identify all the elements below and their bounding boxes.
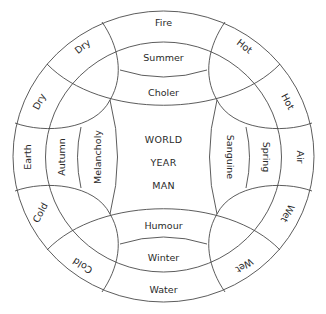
label-choler: Choler: [148, 87, 179, 98]
label-wet-right: Wet: [279, 203, 297, 225]
spring-sanguine-divider: [246, 127, 250, 188]
label-cold-bottom: Cold: [71, 256, 95, 277]
winter-left-arc: [102, 214, 118, 292]
summer-left-arc: [102, 22, 118, 100]
sanguine-inner-border: [210, 100, 218, 214]
label-earth: Earth: [22, 144, 33, 169]
label-cold-left: Cold: [30, 201, 50, 225]
winter-humour-divider: [120, 237, 207, 244]
cosmological-tetrad-diagram: Fire Summer Choler WORLD YEAR MAN Humour…: [0, 0, 326, 314]
label-humour: Humour: [144, 220, 182, 231]
label-fire: Fire: [155, 17, 172, 28]
melancholy-inner-border: [110, 100, 118, 214]
winter-right-arc: [209, 214, 225, 292]
label-melancholy: Melancholy: [92, 130, 103, 184]
choler-lower-arc: [47, 64, 280, 105]
label-dry-top: Dry: [72, 36, 92, 55]
label-spring: Spring: [261, 142, 272, 173]
label-autumn: Autumn: [56, 138, 67, 176]
summer-choler-divider: [120, 70, 207, 77]
center-year: YEAR: [149, 157, 176, 168]
label-hot-top: Hot: [235, 37, 255, 56]
label-hot-right: Hot: [279, 92, 297, 112]
label-dry-left: Dry: [30, 91, 48, 111]
label-water: Water: [149, 284, 177, 295]
autumn-lower-arc: [15, 185, 110, 214]
label-summer: Summer: [143, 52, 183, 63]
spring-lower-arc: [217, 185, 312, 214]
spring-upper-arc: [217, 100, 312, 129]
label-winter: Winter: [148, 252, 179, 263]
center-world: WORLD: [145, 134, 183, 145]
summer-right-arc: [209, 22, 225, 100]
label-sanguine: Sanguine: [225, 135, 236, 180]
labels: Fire Summer Choler WORLD YEAR MAN Humour…: [22, 17, 306, 295]
autumn-upper-arc: [15, 100, 110, 129]
label-wet-bottom: Wet: [234, 256, 256, 275]
label-air: Air: [295, 150, 306, 163]
center-man: MAN: [152, 180, 175, 191]
autumn-melancholy-divider: [78, 127, 82, 188]
